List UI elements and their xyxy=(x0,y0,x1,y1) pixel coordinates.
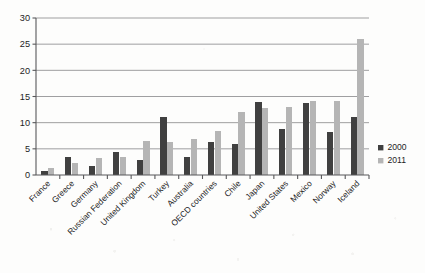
x-axis-labels-group: FranceGreeceGermanyRussian FederationUni… xyxy=(27,178,362,237)
y-axis-tick-label: 10 xyxy=(20,118,30,128)
bars-group xyxy=(41,39,363,175)
bar-2011-mexico xyxy=(310,101,316,175)
y-axis-labels-group: 051015202530 xyxy=(20,13,30,180)
legend-swatch-2011 xyxy=(378,158,383,163)
bar-2000-norway xyxy=(327,132,333,175)
bar-2000-greece xyxy=(65,157,71,175)
bar-2011-australia xyxy=(191,139,197,175)
bar-2000-chile xyxy=(232,144,238,175)
bar-2011-united-states xyxy=(286,107,292,175)
legend-label-2000: 2000 xyxy=(388,142,407,152)
bar-2000-united-states xyxy=(279,129,285,175)
x-axis-tick-label: Mexico xyxy=(288,178,314,204)
legend-label-2011: 2011 xyxy=(388,155,407,165)
x-axis-tick-label: France xyxy=(27,178,53,204)
bar-2000-japan xyxy=(255,102,261,175)
bar-2000-france xyxy=(41,171,47,175)
y-axis-tick-label: 0 xyxy=(25,170,30,180)
bar-2011-norway xyxy=(334,101,340,175)
bar-2011-france xyxy=(48,168,54,175)
x-axis-ticks-group xyxy=(60,175,369,179)
y-axis-tick-label: 25 xyxy=(20,39,30,49)
y-axis-tick-label: 20 xyxy=(20,66,30,76)
x-axis-tick-label: Iceland xyxy=(335,178,361,204)
bar-2011-russian-federation xyxy=(120,157,126,175)
y-axis-tick-label: 15 xyxy=(20,92,30,102)
bar-2011-oecd-countries xyxy=(215,131,221,175)
bar-2000-turkey xyxy=(160,117,166,175)
bar-2000-mexico xyxy=(303,103,309,175)
legend-swatch-2000 xyxy=(378,145,383,150)
bar-2011-turkey xyxy=(167,142,173,175)
bar-2000-oecd-countries xyxy=(208,142,214,175)
bar-chart: 051015202530 FranceGreeceGermanyRussian … xyxy=(0,0,425,273)
bar-2000-united-kingdom xyxy=(137,160,143,175)
bar-2000-australia xyxy=(184,157,190,175)
bar-2011-greece xyxy=(72,163,78,175)
bar-2011-japan xyxy=(262,108,268,175)
x-axis-tick-label: Chile xyxy=(222,178,243,199)
y-axis-tick-label: 5 xyxy=(25,144,30,154)
x-axis-tick-label: Norway xyxy=(311,178,339,206)
bar-2000-russian-federation xyxy=(113,152,119,175)
bar-2011-germany xyxy=(96,158,102,175)
bar-2011-chile xyxy=(238,112,244,175)
bar-2011-united-kingdom xyxy=(143,141,149,175)
gridlines-group xyxy=(36,18,369,149)
bar-2011-iceland xyxy=(357,39,363,175)
bar-2000-germany xyxy=(89,166,95,175)
legend: 20002011 xyxy=(378,142,407,165)
y-axis-tick-label: 30 xyxy=(20,13,30,23)
bar-2000-iceland xyxy=(351,117,357,175)
